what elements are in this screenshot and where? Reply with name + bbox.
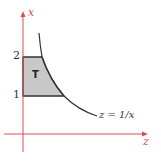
vertical-axis-arrow-icon (21, 11, 26, 17)
diagram-canvas (0, 0, 161, 161)
horizontal-axis-label: z (143, 135, 149, 148)
region-t (23, 57, 64, 96)
region-label: T (32, 69, 39, 80)
vertical-axis-label: x (28, 6, 34, 19)
curve-label: z = 1/x (99, 109, 134, 120)
tick-label-2: 2 (13, 49, 20, 62)
tick-label-1: 1 (13, 88, 20, 101)
